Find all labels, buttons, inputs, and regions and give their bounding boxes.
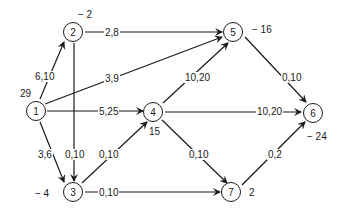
edge-label-2-3: 0,10 [64, 149, 85, 160]
edge-label-7-6: 0,2 [267, 149, 283, 160]
supply-node-1: 29 [19, 88, 32, 99]
edges-layer [0, 0, 352, 217]
edge-label-4-6: 10,20 [256, 106, 283, 117]
node-1: 1 [26, 101, 46, 121]
node-2: 2 [63, 22, 83, 42]
edge-label-4-7: 0,10 [188, 149, 209, 160]
supply-node-2: − 2 [77, 9, 93, 20]
edge-label-1-5: 3,9 [104, 73, 120, 84]
node-4: 4 [143, 102, 163, 122]
edge-label-3-4: 0,10 [98, 149, 119, 160]
supply-node-4: 15 [148, 126, 161, 137]
edge-label-1-3: 3,6 [37, 149, 53, 160]
edge-label-5-6: 0,10 [281, 72, 302, 83]
node-5: 5 [223, 22, 243, 42]
edge-label-4-5: 10,20 [184, 72, 211, 83]
supply-node-3: − 4 [34, 188, 50, 199]
edge-label-1-2: 6,10 [34, 71, 55, 82]
edge-label-2-5: 2,8 [104, 27, 120, 38]
node-3: 3 [63, 182, 83, 202]
edge-label-1-4: 5,25 [98, 106, 119, 117]
node-6: 6 [303, 103, 323, 123]
edge-label-3-7: 0,10 [98, 187, 119, 198]
supply-node-7: 2 [248, 187, 256, 198]
edge-5-6 [245, 37, 306, 102]
supply-node-6: − 24 [306, 131, 328, 142]
edge-1-5 [45, 37, 222, 104]
node-7: 7 [221, 182, 241, 202]
supply-node-5: − 16 [251, 24, 273, 35]
